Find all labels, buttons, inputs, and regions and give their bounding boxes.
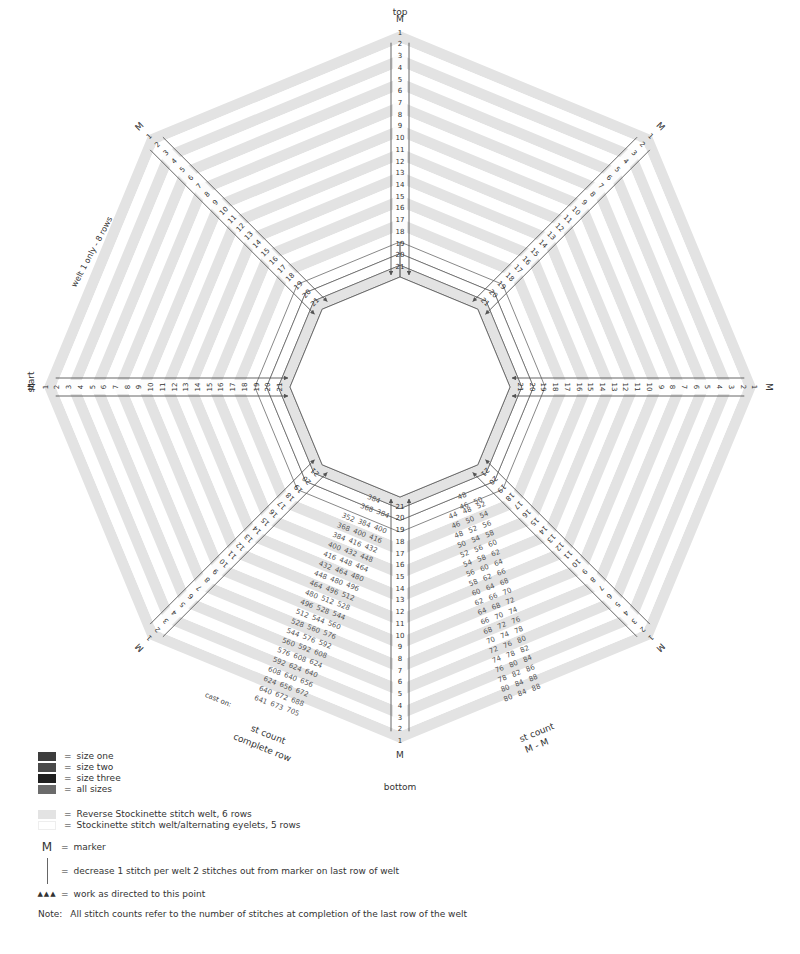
row-number: 10 bbox=[396, 632, 405, 640]
row-number: 1 bbox=[398, 29, 402, 37]
legend-stockinette-label: Stockinette stitch welt/alternating eyel… bbox=[77, 820, 301, 830]
legend-stockinette: = Stockinette stitch welt/alternating ey… bbox=[38, 820, 301, 830]
row-number: 21 bbox=[396, 503, 405, 511]
row-number: 19 bbox=[539, 383, 547, 392]
legend-rev-stockinette: = Reverse Stockinette stitch welt, 6 row… bbox=[38, 809, 252, 819]
row-number: 7 bbox=[398, 99, 402, 107]
row-number: 1 bbox=[398, 737, 402, 745]
row-number: 4 bbox=[715, 385, 723, 390]
row-number: 5 bbox=[398, 690, 402, 698]
row-number: 7 bbox=[398, 667, 402, 675]
row-number: 14 bbox=[396, 181, 405, 189]
row-number: 16 bbox=[575, 383, 583, 392]
row-number: 4 bbox=[77, 384, 85, 389]
all-sizes-swatch bbox=[38, 785, 56, 794]
row-number: 15 bbox=[396, 573, 405, 581]
size-three-swatch bbox=[38, 774, 56, 783]
size-two-swatch bbox=[38, 763, 56, 772]
row-number: 8 bbox=[398, 655, 402, 663]
row-number: 18 bbox=[551, 383, 559, 392]
legend-work-label: work as directed to this point bbox=[74, 889, 206, 899]
row-number: 12 bbox=[396, 608, 405, 616]
row-number: 4 bbox=[398, 702, 403, 710]
row-number: 11 bbox=[396, 146, 405, 154]
legend-all-sizes-label: all sizes bbox=[77, 784, 113, 794]
row-number: 8 bbox=[124, 385, 132, 389]
row-number: 12 bbox=[171, 383, 179, 392]
row-number: 21 bbox=[516, 383, 524, 392]
stitch-count: 673 bbox=[269, 700, 284, 712]
row-number: 1 bbox=[750, 385, 758, 389]
row-number: 10 bbox=[645, 383, 653, 392]
marker-label: M bbox=[654, 641, 667, 654]
row-number: 3 bbox=[727, 385, 735, 389]
row-number: 11 bbox=[396, 620, 405, 628]
row-number: 16 bbox=[217, 382, 225, 391]
row-number: 4 bbox=[398, 64, 403, 72]
row-number: 15 bbox=[396, 193, 405, 201]
row-number: 5 bbox=[398, 76, 402, 84]
bottom-label: bottom bbox=[384, 782, 417, 792]
row-number: 1 bbox=[42, 385, 50, 389]
row-number: 7 bbox=[112, 385, 120, 389]
row-number: 2 bbox=[53, 385, 61, 389]
marker-symbol: M bbox=[33, 840, 61, 854]
octagon-welt-diagram: 123456789101112131415161718192021M123456… bbox=[0, 0, 800, 800]
row-number: 18 bbox=[241, 383, 249, 392]
row-number: 17 bbox=[396, 550, 405, 558]
row-number: 19 bbox=[396, 240, 405, 248]
row-number: 13 bbox=[396, 169, 405, 177]
row-number: 20 bbox=[264, 383, 272, 392]
row-number: 15 bbox=[586, 383, 594, 392]
legend-decrease: = decrease 1 stitch per welt 2 stitches … bbox=[33, 856, 399, 886]
row-number: 3 bbox=[398, 52, 402, 60]
stockinette-swatch bbox=[38, 821, 56, 830]
marker-label: M bbox=[133, 641, 146, 654]
marker-label: M bbox=[654, 120, 667, 133]
rev-stockinette-swatch bbox=[38, 810, 56, 819]
row-number: 12 bbox=[396, 158, 405, 166]
note-prefix: Note: bbox=[38, 909, 62, 919]
marker-label: M bbox=[396, 750, 404, 760]
row-number: 17 bbox=[229, 383, 237, 392]
row-number: 14 bbox=[598, 383, 606, 392]
start-label: start bbox=[26, 371, 36, 392]
row-number: 12 bbox=[621, 383, 629, 392]
row-number: 19 bbox=[396, 526, 405, 534]
row-number: 9 bbox=[135, 385, 143, 389]
row-number: 17 bbox=[396, 216, 405, 224]
row-number: 11 bbox=[159, 383, 167, 392]
row-number: 2 bbox=[398, 40, 402, 48]
row-number: 15 bbox=[206, 383, 214, 392]
row-number: 5 bbox=[89, 385, 97, 389]
row-number: 9 bbox=[398, 643, 402, 651]
row-number: 9 bbox=[398, 122, 402, 130]
row-number: 20 bbox=[396, 514, 405, 522]
row-number: 10 bbox=[147, 383, 155, 392]
legend-all-sizes: = all sizes bbox=[38, 784, 112, 794]
legend-marker: M = marker bbox=[33, 840, 106, 854]
row-number: 17 bbox=[563, 383, 571, 392]
arrowheads-icon: ▲▲▲ bbox=[33, 890, 61, 898]
legend-size-two: = size two bbox=[38, 762, 113, 772]
row-number: 16 bbox=[396, 204, 405, 212]
cast-on-label: cast on: bbox=[204, 691, 233, 709]
marker-label: M bbox=[133, 120, 146, 133]
note-text: All stitch counts refer to the number of… bbox=[70, 909, 467, 919]
row-number: 14 bbox=[396, 585, 405, 593]
row-number: 20 bbox=[396, 251, 405, 259]
legend-note: Note: All stitch counts refer to the num… bbox=[38, 909, 467, 919]
legend-decrease-label: decrease 1 stitch per welt 2 stitches ou… bbox=[74, 866, 400, 876]
row-number: 21 bbox=[276, 383, 284, 392]
row-number: 6 bbox=[398, 678, 403, 686]
row-number: 6 bbox=[692, 385, 700, 390]
row-number: 11 bbox=[633, 383, 641, 392]
row-number: 2 bbox=[398, 725, 402, 733]
top-label: top bbox=[393, 7, 408, 17]
legend-work-directed: ▲▲▲ = work as directed to this point bbox=[33, 889, 205, 899]
row-number: 7 bbox=[680, 385, 688, 389]
row-number: 18 bbox=[396, 538, 405, 546]
row-number: 8 bbox=[398, 111, 402, 119]
row-number: 3 bbox=[398, 714, 402, 722]
size-one-swatch bbox=[38, 752, 56, 761]
